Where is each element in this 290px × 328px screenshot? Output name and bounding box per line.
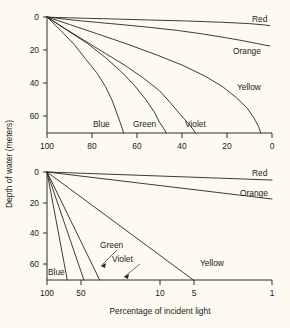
bottom-y-ticklabel-20: 20 [30, 198, 40, 208]
violet-leader-line [124, 264, 140, 277]
top-panel-y-ticks: 0 20 40 60 [30, 12, 47, 121]
curve-green [47, 172, 84, 280]
bottom-y-ticklabel-60: 60 [30, 259, 40, 269]
curve-violet [47, 17, 196, 133]
bottom-panel-logarithmic: 0 20 40 60 100 50 10 5 1 Red Orange Yell… [30, 167, 275, 316]
bottom-x-ticklabel-1: 1 [270, 288, 275, 298]
bottom-series-label-green: Green [100, 240, 124, 250]
top-x-ticklabel-40: 40 [177, 141, 187, 151]
bottom-panel-axes [47, 172, 272, 280]
top-y-ticklabel-20: 20 [30, 45, 40, 55]
light-penetration-figure: Depth of water (meters) 0 20 40 60 100 8… [0, 0, 290, 328]
top-panel-curves [47, 17, 270, 133]
curve-red [47, 17, 270, 26]
top-x-ticklabel-100: 100 [40, 141, 54, 151]
bottom-y-ticklabel-40: 40 [30, 228, 40, 238]
bottom-series-label-red: Red [252, 168, 268, 178]
x-axis-title: Percentage of incident light [109, 306, 211, 316]
figure-svg: Depth of water (meters) 0 20 40 60 100 8… [0, 0, 290, 328]
bottom-y-ticklabel-0: 0 [34, 167, 39, 177]
bottom-series-label-yellow: Yellow [200, 258, 225, 268]
curve-yellow [47, 17, 261, 133]
bottom-panel-x-ticks: 100 50 10 5 1 [40, 280, 275, 298]
y-axis-title: Depth of water (meters) [4, 120, 14, 208]
top-y-ticklabel-40: 40 [30, 78, 40, 88]
bottom-series-label-orange: Orange [240, 188, 268, 198]
top-series-label-violet: Violet [185, 119, 206, 129]
top-series-label-red: Red [252, 14, 268, 24]
top-x-ticklabel-0: 0 [270, 141, 275, 151]
top-series-label-green: Green [133, 119, 157, 129]
bottom-series-label-violet: Violet [112, 254, 133, 264]
top-y-ticklabel-0: 0 [34, 12, 39, 22]
curve-blue [47, 17, 124, 133]
curve-violet [47, 172, 100, 280]
bottom-x-ticklabel-50: 50 [76, 288, 86, 298]
bottom-x-ticklabel-100: 100 [40, 288, 54, 298]
top-panel-x-ticks: 100 80 60 40 20 0 [40, 133, 275, 151]
top-series-label-orange: Orange [233, 46, 261, 56]
top-x-ticklabel-20: 20 [222, 141, 232, 151]
top-panel-linear: 0 20 40 60 100 80 60 40 20 0 Red Orange … [30, 12, 275, 151]
top-panel-axes [47, 17, 272, 133]
bottom-series-label-blue: Blue [48, 267, 65, 277]
bottom-panel-y-ticks: 0 20 40 60 [30, 167, 47, 269]
bottom-x-ticklabel-5: 5 [192, 288, 197, 298]
curve-orange [47, 17, 270, 46]
top-y-ticklabel-60: 60 [30, 111, 40, 121]
bottom-panel-curves [47, 172, 272, 280]
curve-blue [47, 172, 67, 280]
top-series-label-blue: Blue [93, 119, 110, 129]
top-x-ticklabel-80: 80 [87, 141, 97, 151]
top-series-label-yellow: Yellow [237, 82, 262, 92]
top-x-ticklabel-60: 60 [132, 141, 142, 151]
bottom-x-ticklabel-10: 10 [155, 288, 165, 298]
